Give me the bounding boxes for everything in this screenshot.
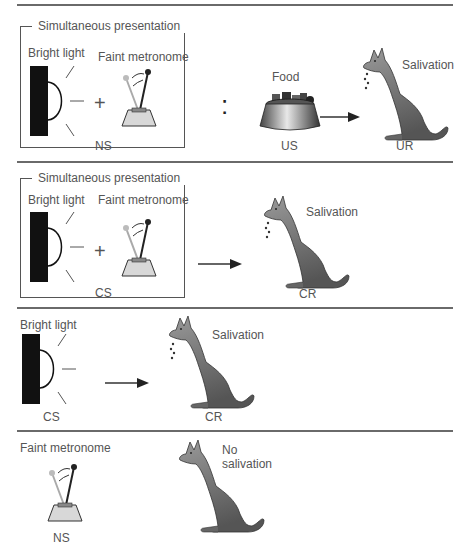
label-faint-metronome: Faint metronome (98, 193, 189, 207)
drool-icon (268, 223, 274, 243)
compound-tag: NS (95, 139, 112, 153)
stimulus-tag: NS (53, 531, 70, 545)
response-tag: CR (299, 287, 316, 301)
divider-3 (17, 307, 453, 309)
arrow-icon (320, 112, 360, 122)
food-tag: US (281, 139, 298, 153)
bright-light-icon (30, 66, 90, 138)
divider-top (17, 4, 453, 6)
colon-separator: : (221, 90, 228, 121)
response-label: No salivation (222, 443, 282, 471)
arrow-icon (198, 259, 242, 269)
bright-light-icon (22, 334, 82, 406)
response-label: Salivation (212, 328, 264, 342)
response-tag: CR (205, 410, 222, 424)
divider-4 (17, 430, 453, 432)
bright-light-icon (30, 212, 90, 284)
response-text: No salivation (222, 443, 272, 471)
drool-icon (173, 344, 179, 364)
metronome-icon (42, 467, 86, 523)
label-faint-metronome: Faint metronome (20, 441, 111, 455)
label-bright-light: Bright light (28, 193, 85, 207)
drool-icon (367, 74, 373, 94)
food-bowl-icon (258, 92, 322, 136)
response-tag: UR (396, 139, 413, 153)
arrow-icon (105, 378, 149, 388)
compound-tag: CS (95, 286, 112, 300)
bracket-title: Simultaneous presentation (32, 171, 186, 185)
response-label: Salivation (402, 58, 454, 72)
metronome-icon (116, 222, 160, 278)
label-faint-metronome: Faint metronome (98, 50, 189, 64)
divider-2 (17, 161, 453, 163)
label-food: Food (272, 70, 299, 84)
plus-operator: + (94, 92, 106, 115)
metronome-icon (116, 72, 160, 128)
plus-operator: + (94, 240, 106, 263)
bracket-title: Simultaneous presentation (32, 19, 186, 33)
response-label: Salivation (306, 205, 358, 219)
label-bright-light: Bright light (20, 318, 77, 332)
stimulus-tag: CS (43, 410, 60, 424)
label-bright-light: Bright light (28, 46, 85, 60)
